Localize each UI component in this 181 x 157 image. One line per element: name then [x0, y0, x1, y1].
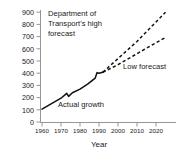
annotation-actual-growth-label: Actual growth: [58, 100, 104, 109]
y-tick-label: 800: [22, 20, 34, 29]
y-tick-labels: 900 800 700 600 500 400 300 200 100 0: [22, 8, 34, 127]
line-chart: 900 800 700 600 500 400 300 200 100 0 19…: [0, 0, 181, 157]
annotation-low-forecast-label: Low forecast: [123, 62, 167, 71]
chart-container: 900 800 700 600 500 400 300 200 100 0 19…: [0, 0, 181, 157]
y-tick-label: 600: [22, 45, 34, 54]
annotation-high-forecast-label: Department of Transport's high forecast: [48, 9, 102, 38]
y-tick-label: 400: [22, 69, 34, 78]
x-tick-labels: 1960 1970 1980 1990 2000 2010 2020: [35, 127, 163, 134]
x-tick-label: 2020: [149, 127, 163, 134]
y-tick-marks: [37, 12, 41, 122]
x-tick-label: 1980: [73, 127, 87, 134]
annotation-line: Department of: [48, 9, 97, 18]
x-tick-label: 1970: [54, 127, 68, 134]
x-tick-marks: [42, 123, 156, 127]
y-tick-label: 100: [22, 106, 34, 115]
x-tick-label: 1990: [92, 127, 106, 134]
y-tick-label: 500: [22, 57, 34, 66]
annotation-line: forecast: [48, 29, 76, 38]
y-tick-label: 200: [22, 93, 34, 102]
y-tick-label: 900: [22, 8, 34, 17]
x-tick-label: 2010: [130, 127, 144, 134]
y-tick-label: 0: [30, 118, 34, 127]
annotation-line: Low forecast: [123, 62, 167, 71]
y-tick-label: 700: [22, 32, 34, 41]
annotation-line: Actual growth: [58, 100, 104, 109]
annotation-line: Transport's high: [48, 19, 102, 28]
y-tick-label: 300: [22, 81, 34, 90]
x-tick-label: 2000: [111, 127, 125, 134]
x-axis-title: Year: [91, 140, 108, 149]
x-tick-label: 1960: [35, 127, 49, 134]
